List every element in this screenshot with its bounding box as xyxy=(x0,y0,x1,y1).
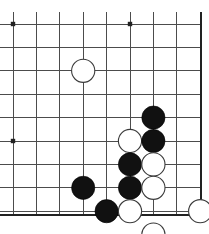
black-stone-d8[interactable] xyxy=(72,176,95,199)
star-point-marker xyxy=(128,22,132,26)
go-board-canvas[interactable] xyxy=(0,0,209,234)
black-stone-g5[interactable] xyxy=(142,106,165,129)
star-points xyxy=(11,22,132,143)
black-stone-e9[interactable] xyxy=(95,200,118,223)
grid-lines xyxy=(0,12,201,215)
white-stone-d3[interactable] xyxy=(72,59,95,82)
black-stone-g6[interactable] xyxy=(142,129,165,152)
white-stone-g7[interactable] xyxy=(142,153,165,176)
board-edges xyxy=(0,12,201,215)
go-board-diagram xyxy=(0,0,209,234)
white-stone-f6[interactable] xyxy=(118,129,141,152)
black-stone-f8[interactable] xyxy=(118,176,141,199)
white-stone-g8[interactable] xyxy=(142,176,165,199)
stones-layer[interactable] xyxy=(72,59,209,234)
white-stone-f9[interactable] xyxy=(118,200,141,223)
white-stone-g10[interactable] xyxy=(142,223,165,234)
white-stone-i9[interactable] xyxy=(189,200,209,223)
star-point-marker xyxy=(11,139,15,143)
black-stone-f7[interactable] xyxy=(118,153,141,176)
star-point-marker xyxy=(11,22,15,26)
